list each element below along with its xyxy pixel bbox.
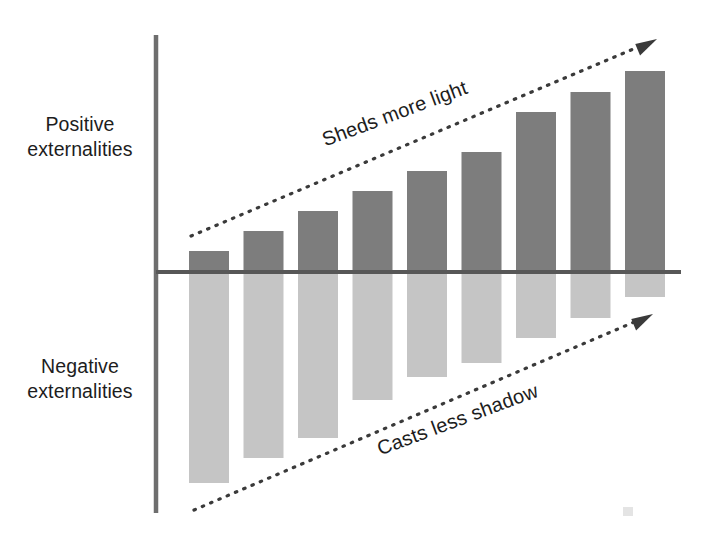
bar-negative [571,272,611,318]
corner-artifact-mark [623,507,633,516]
negative-externalities-label: Negative externalities [18,354,142,404]
bar-positive [353,191,393,272]
bar-positive [407,171,447,272]
chart-canvas: Positive externalities Negative external… [0,0,709,540]
trend-arrow-bottom-head [631,314,653,330]
bar-positive [516,112,556,272]
bar-positive [244,231,284,272]
bar-negative [189,272,229,483]
bar-positive [571,92,611,272]
bar-negative [462,272,502,363]
bar-negative [407,272,447,377]
bar-negative [298,272,338,438]
positive-externalities-label: Positive externalities [18,112,142,162]
bar-positive [462,152,502,272]
externalities-bar-chart [0,0,709,540]
negative-bars-group [189,272,665,483]
bar-positive [298,211,338,272]
bar-positive [189,251,229,272]
bar-negative [353,272,393,400]
bar-negative [625,272,665,297]
bar-negative [244,272,284,458]
bar-negative [516,272,556,338]
trend-arrow-top-head [635,39,657,55]
bar-positive [625,71,665,272]
